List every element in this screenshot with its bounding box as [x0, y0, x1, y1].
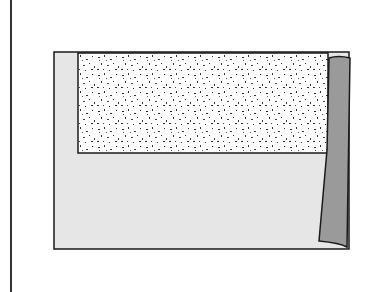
diagram-canvas: [0, 0, 387, 292]
speckled-region: [78, 53, 328, 153]
